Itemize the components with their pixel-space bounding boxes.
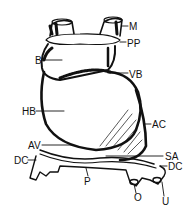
label-ac: AC bbox=[152, 120, 166, 130]
label-b: B bbox=[35, 56, 42, 66]
right-tube bbox=[100, 18, 122, 36]
conus-ac bbox=[120, 90, 146, 160]
ducts-dc bbox=[30, 156, 165, 186]
label-u: U bbox=[162, 197, 169, 207]
bulb-b bbox=[42, 44, 116, 80]
label-m: M bbox=[129, 22, 137, 32]
plate-pp bbox=[46, 34, 120, 45]
label-dc-left: DC bbox=[14, 156, 28, 166]
label-o: O bbox=[134, 193, 142, 203]
label-dc-right: DC bbox=[168, 162, 182, 172]
label-av: AV bbox=[28, 141, 41, 151]
label-hb: HB bbox=[22, 107, 36, 117]
label-vb: VB bbox=[129, 70, 142, 80]
label-pp: PP bbox=[127, 39, 140, 49]
label-p: P bbox=[84, 177, 91, 187]
